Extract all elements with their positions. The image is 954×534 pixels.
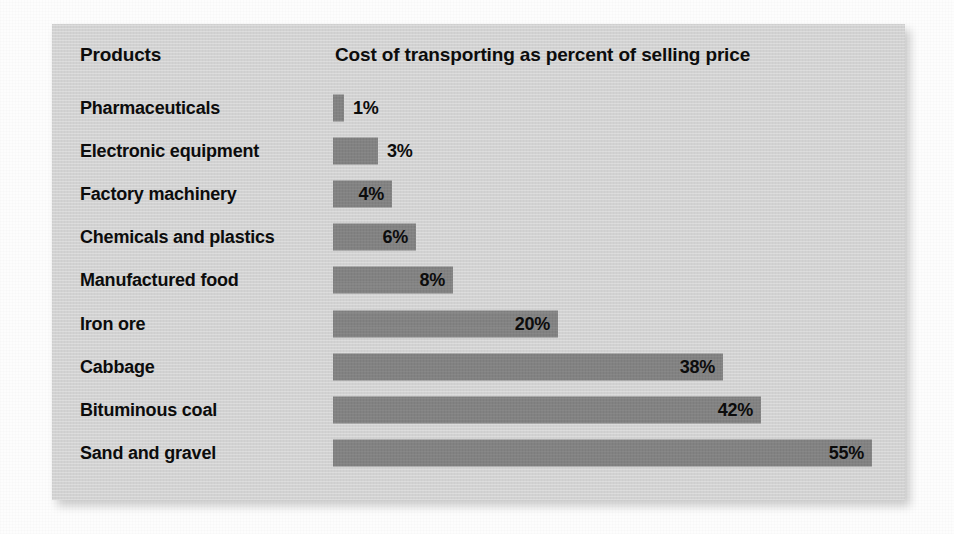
bar-row-label: Cabbage [80,356,155,377]
bar-row: Iron ore20% [52,302,905,345]
bar-row-label: Sand and gravel [80,443,216,464]
bar: 20% [333,310,558,337]
chart-header-row: Products Cost of transporting as percent… [52,44,905,78]
bar-row-label: Electronic equipment [80,140,259,161]
bar-row-label: Chemicals and plastics [80,227,275,248]
bar-row-label: Pharmaceuticals [80,97,220,118]
bar-row: Chemicals and plastics6% [52,216,905,259]
bar-rows: Pharmaceuticals1%Electronic equipment3%F… [52,86,905,475]
bar-row: Pharmaceuticals1% [52,86,905,129]
bar-track: 6% [333,224,899,251]
bar: 6% [333,224,416,251]
bar-value-label: 8% [420,270,453,291]
bar: 8% [333,267,453,294]
bar-value-label: 3% [378,140,412,161]
bar-row: Manufactured food8% [52,259,905,302]
bar-track: 8% [333,267,899,294]
bar-value-label: 1% [344,97,378,118]
bar-row-label: Iron ore [80,313,145,334]
chart-title: Cost of transporting as percent of selli… [335,44,750,66]
bar-track: 1% [333,94,899,121]
bar-row: Factory machinery4% [52,172,905,215]
bar-track: 20% [333,310,899,337]
bar-value-label: 38% [680,356,723,377]
bar-row-label: Manufactured food [80,270,239,291]
bar-track: 4% [333,180,899,207]
bar-value-label: 55% [829,443,872,464]
bar: 4% [333,180,392,207]
bar-row: Sand and gravel55% [52,432,905,475]
bar-row-label: Factory machinery [80,183,237,204]
bar-row: Bituminous coal42% [52,388,905,431]
bar-value-label: 4% [359,183,392,204]
bar-row: Cabbage38% [52,345,905,388]
bar-row-label: Bituminous coal [80,399,217,420]
bar-value-label: 42% [718,399,761,420]
bar-track: 55% [333,440,899,467]
bar: 3% [333,137,378,164]
bar-track: 42% [333,396,899,423]
bar: 42% [333,396,761,423]
bar-value-label: 20% [515,313,558,334]
bar: 55% [333,440,872,467]
bar-row: Electronic equipment3% [52,129,905,172]
bar-track: 38% [333,353,899,380]
bar: 1% [333,94,344,121]
bar-value-label: 6% [383,227,416,248]
bar-chart-panel: Products Cost of transporting as percent… [52,24,905,500]
category-column-header: Products [80,44,161,66]
bar-track: 3% [333,137,899,164]
bar: 38% [333,353,723,380]
